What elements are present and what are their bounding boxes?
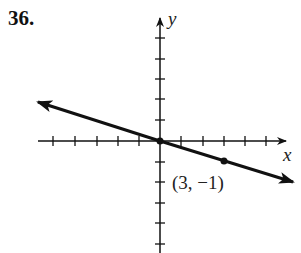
x-axis-label: x [282, 144, 292, 165]
point-3-neg1 [221, 158, 228, 165]
y-axis [155, 18, 165, 253]
origin-point [157, 138, 164, 145]
y-axis-label: y [166, 8, 177, 29]
coordinate-plane: y x (3, −1) [0, 0, 301, 253]
graph-line [38, 102, 293, 182]
point-label: (3, −1) [172, 172, 224, 194]
